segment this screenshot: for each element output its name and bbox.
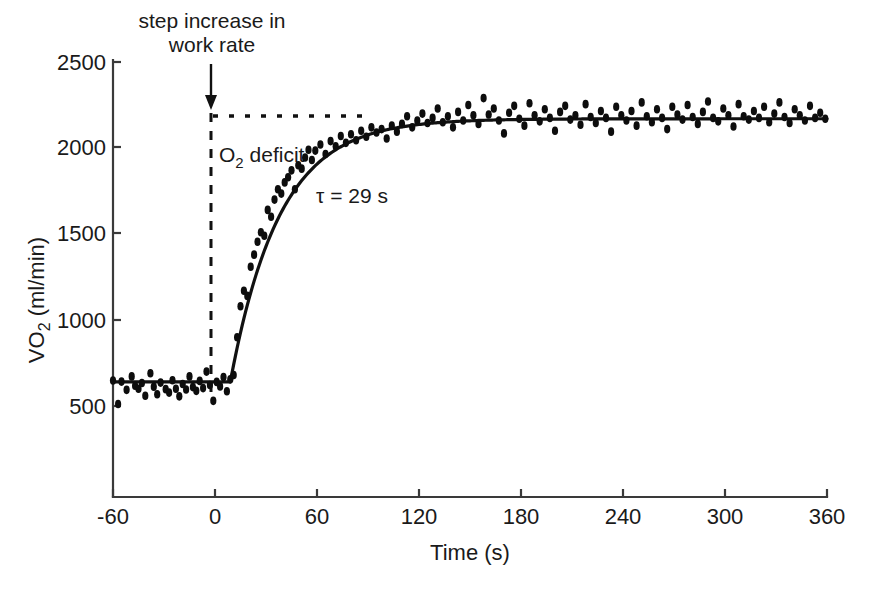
data-point	[465, 101, 471, 110]
x-tick-label-300: 300	[707, 504, 744, 529]
data-point	[460, 116, 466, 125]
data-point	[193, 387, 199, 396]
data-point	[547, 114, 553, 123]
data-point	[414, 116, 420, 125]
data-point	[251, 250, 257, 259]
data-point	[583, 100, 589, 109]
data-point	[440, 118, 446, 127]
data-point	[455, 108, 461, 117]
y-axis-title-sub: 2	[36, 322, 53, 331]
data-point	[562, 102, 568, 111]
data-point	[210, 397, 216, 406]
o2-deficit-main: O	[219, 143, 235, 166]
data-point	[664, 125, 670, 134]
data-point	[817, 108, 823, 117]
data-point	[588, 113, 594, 122]
data-point	[613, 102, 619, 111]
figure-container: 2500 2000 1500 1000 500 -60 0 60 120 180…	[0, 0, 877, 589]
step-increase-note-line1: step increase in	[138, 9, 285, 32]
svg-text:VO2 (ml/min): VO2 (ml/min)	[24, 237, 53, 363]
data-point	[674, 110, 680, 119]
x-tick-label-240: 240	[605, 504, 642, 529]
data-point	[424, 119, 430, 128]
data-point	[271, 195, 277, 204]
data-point	[776, 98, 782, 107]
data-point	[322, 150, 328, 159]
data-point	[486, 110, 492, 119]
data-point	[217, 382, 223, 391]
data-point	[623, 116, 629, 125]
data-point	[166, 388, 172, 397]
data-point	[521, 121, 527, 130]
data-point	[496, 116, 502, 125]
data-point	[481, 94, 487, 103]
data-point	[317, 140, 323, 149]
data-point	[511, 102, 517, 111]
data-point	[124, 386, 130, 395]
data-point	[771, 109, 777, 118]
x-tick-label-180: 180	[503, 504, 540, 529]
data-point	[353, 136, 359, 145]
data-point	[409, 123, 415, 132]
x-tick-label-360: 360	[809, 504, 846, 529]
data-point	[491, 104, 497, 113]
vo2-kinetics-chart: 2500 2000 1500 1000 500 -60 0 60 120 180…	[0, 0, 877, 589]
data-point	[176, 392, 182, 401]
data-point	[292, 185, 298, 194]
data-point	[685, 101, 691, 110]
data-point	[532, 111, 538, 120]
y-tick-label-1500: 1500	[57, 221, 106, 246]
data-point	[394, 127, 400, 136]
data-point	[115, 400, 121, 409]
data-point	[142, 391, 148, 400]
data-point	[207, 381, 213, 390]
data-point	[358, 127, 364, 136]
data-point	[603, 114, 609, 123]
o2-deficit-sub: 2	[235, 154, 243, 171]
data-point	[751, 107, 757, 116]
data-point	[542, 105, 548, 114]
data-point	[659, 114, 665, 123]
y-tick-label-2000: 2000	[57, 135, 106, 160]
data-point	[231, 371, 237, 380]
data-point	[746, 115, 752, 124]
step-increase-note-line2: work rate	[168, 33, 255, 56]
data-point	[628, 107, 634, 116]
data-point	[720, 104, 726, 113]
data-point	[278, 189, 284, 198]
data-point	[608, 127, 614, 136]
data-point	[725, 111, 731, 120]
x-axis-ticks	[113, 489, 827, 497]
data-point	[139, 379, 145, 388]
data-point	[572, 111, 578, 120]
data-point	[379, 125, 385, 134]
data-point	[309, 156, 315, 165]
data-point	[516, 114, 522, 123]
data-point	[110, 376, 116, 385]
data-point	[700, 108, 706, 117]
data-point	[639, 98, 645, 107]
data-point	[288, 166, 294, 175]
data-point	[634, 121, 640, 130]
data-point	[577, 120, 583, 129]
data-point	[781, 113, 787, 122]
data-point	[399, 120, 405, 129]
data-point	[669, 102, 675, 111]
data-point	[328, 137, 334, 146]
data-point	[475, 120, 481, 129]
data-point	[557, 108, 563, 117]
data-point	[299, 164, 305, 173]
data-point	[705, 97, 711, 106]
data-point	[261, 231, 267, 240]
x-tick-label-0: 0	[209, 504, 221, 529]
data-point	[268, 213, 274, 222]
data-point	[618, 111, 624, 120]
data-point	[552, 127, 558, 136]
data-point	[419, 109, 425, 118]
data-point	[305, 145, 311, 154]
data-point	[537, 117, 543, 126]
data-point	[368, 123, 374, 132]
data-point	[644, 112, 650, 121]
data-point	[506, 108, 512, 117]
data-point	[302, 153, 308, 162]
